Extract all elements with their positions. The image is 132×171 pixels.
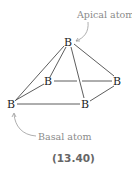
bond-apex-front-right [71, 47, 84, 98]
atom-basal-front-right: B [81, 98, 89, 111]
bonds [15, 44, 114, 104]
bond-front-right-back-right [90, 86, 114, 101]
bond-apex-back-right [74, 44, 114, 76]
apical-atom-label: Apical atom [76, 9, 132, 20]
atom-basal-front-left: B [7, 98, 15, 111]
basal-atom-label: Basal atom [38, 131, 91, 142]
borane-square-pyramid-diagram: B B B B B Apical atom Basal atom (13.40) [0, 0, 132, 171]
atom-basal-back-right: B [113, 75, 121, 88]
bond-front-left-back-left [16, 84, 44, 100]
bond-apex-back-left [50, 47, 66, 77]
atom-apical: B [64, 36, 72, 49]
basal-arrow [14, 114, 36, 136]
atom-basal-back-left: B [44, 75, 52, 88]
equation-number: (13.40) [52, 152, 95, 164]
bond-apex-front-left [15, 46, 64, 101]
